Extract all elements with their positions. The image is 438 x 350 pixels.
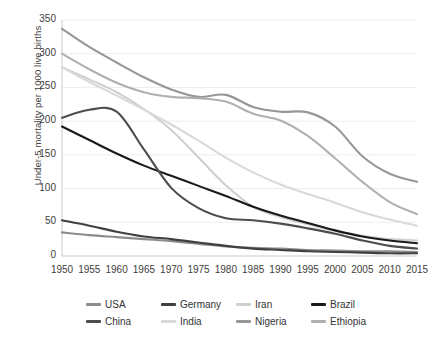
y-tick-label: 200 xyxy=(26,114,56,125)
legend-label: Iran xyxy=(255,299,272,310)
series-line-brazil xyxy=(62,127,417,244)
legend-item-nigeria[interactable]: Nigeria xyxy=(236,316,311,327)
legend-label: Ethiopia xyxy=(330,316,366,327)
series-line-ethiopia xyxy=(62,54,417,214)
legend-label: Germany xyxy=(180,299,221,310)
series-line-nigeria xyxy=(62,29,417,182)
y-tick-label: 150 xyxy=(26,148,56,159)
legend-item-usa[interactable]: USA xyxy=(86,299,161,310)
legend-swatch-icon xyxy=(236,320,251,323)
y-tick-label: 250 xyxy=(26,80,56,91)
legend-item-china[interactable]: China xyxy=(86,316,161,327)
series-line-china xyxy=(62,108,417,249)
legend-item-ethiopia[interactable]: Ethiopia xyxy=(311,316,386,327)
legend-label: USA xyxy=(105,299,126,310)
legend-label: India xyxy=(180,316,202,327)
legend-label: Brazil xyxy=(330,299,355,310)
legend-item-india[interactable]: India xyxy=(161,316,236,327)
y-tick-label: 0 xyxy=(26,249,56,260)
legend-swatch-icon xyxy=(311,320,326,323)
y-tick-label: 350 xyxy=(26,13,56,24)
chart-container: Under-5 mortality per 1000 live births 3… xyxy=(0,0,438,350)
legend-label: Nigeria xyxy=(255,316,287,327)
y-tick-label: 50 xyxy=(26,215,56,226)
legend-item-iran[interactable]: Iran xyxy=(236,299,311,310)
legend-swatch-icon xyxy=(86,303,101,306)
legend-swatch-icon xyxy=(161,303,176,306)
legend-label: China xyxy=(105,316,131,327)
legend-item-brazil[interactable]: Brazil xyxy=(311,299,386,310)
legend-swatch-icon xyxy=(161,320,176,323)
y-tick-label: 300 xyxy=(26,47,56,58)
legend-swatch-icon xyxy=(236,303,251,306)
y-tick-label: 100 xyxy=(26,182,56,193)
x-tick-label: 2015 xyxy=(400,264,434,275)
chart-legend: USAGermanyIranBrazilChinaIndiaNigeriaEth… xyxy=(86,296,386,330)
legend-item-germany[interactable]: Germany xyxy=(161,299,236,310)
legend-swatch-icon xyxy=(86,320,101,323)
legend-swatch-icon xyxy=(311,303,326,306)
series-lines xyxy=(62,29,417,254)
